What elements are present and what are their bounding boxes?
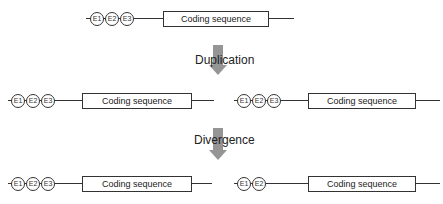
gene-dup-left: E1 E2 E3 Coding sequence [8, 91, 218, 111]
enhancer-e3: E3 [41, 177, 55, 191]
enhancer-e2: E2 [26, 94, 40, 108]
gene-dup-right: E1 E2 E3 Coding sequence [234, 91, 443, 111]
duplication-label: Duplication [195, 53, 254, 67]
enhancer-e3: E3 [41, 94, 55, 108]
gene-div-right: E1 E2 Coding sequence [234, 174, 443, 194]
enhancer-e1: E1 [237, 177, 251, 191]
gene-original: E1 E2 E3 Coding sequence [86, 9, 296, 29]
enhancer-e2: E2 [252, 177, 266, 191]
coding-sequence: Coding sequence [82, 176, 192, 192]
enhancer-e1: E1 [237, 94, 251, 108]
enhancer-e2: E2 [26, 177, 40, 191]
enhancer-e1: E1 [11, 177, 25, 191]
enhancer-e2: E2 [252, 94, 266, 108]
coding-sequence: Coding sequence [82, 93, 192, 109]
enhancer-e1: E1 [90, 12, 104, 26]
coding-sequence: Coding sequence [308, 176, 416, 192]
enhancer-e1: E1 [11, 94, 25, 108]
coding-sequence: Coding sequence [163, 11, 269, 27]
enhancer-e2: E2 [105, 12, 119, 26]
divergence-label: Divergence [194, 133, 255, 147]
coding-sequence: Coding sequence [308, 93, 416, 109]
enhancer-e3: E3 [267, 94, 281, 108]
gene-div-left: E1 E2 E3 Coding sequence [8, 174, 218, 194]
enhancer-e3: E3 [120, 12, 134, 26]
